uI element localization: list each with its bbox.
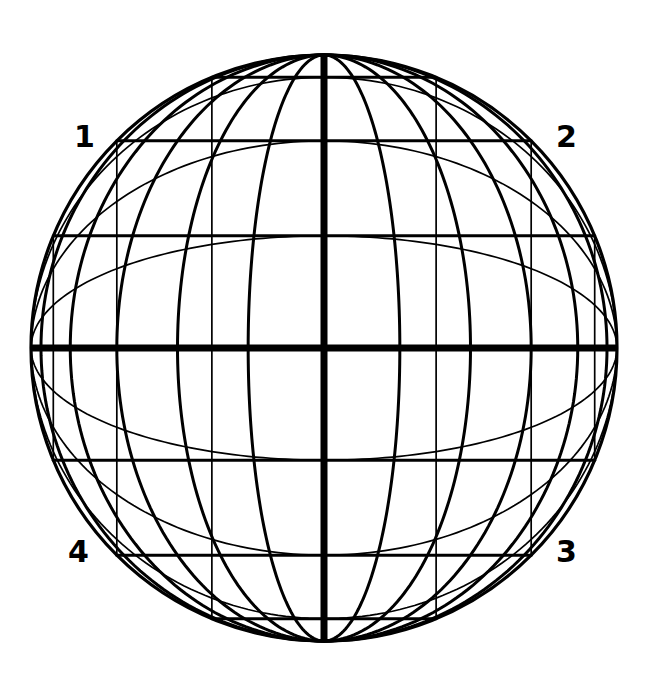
globe-axes-group — [31, 55, 617, 641]
sphere-graticule-diagram — [0, 0, 654, 692]
quadrant-label-4: 4 — [68, 537, 89, 567]
figure-canvas: 1 2 3 4 — [0, 0, 654, 692]
quadrant-label-3: 3 — [556, 537, 577, 567]
quadrant-label-2: 2 — [556, 122, 577, 152]
quadrant-label-1: 1 — [74, 122, 95, 152]
